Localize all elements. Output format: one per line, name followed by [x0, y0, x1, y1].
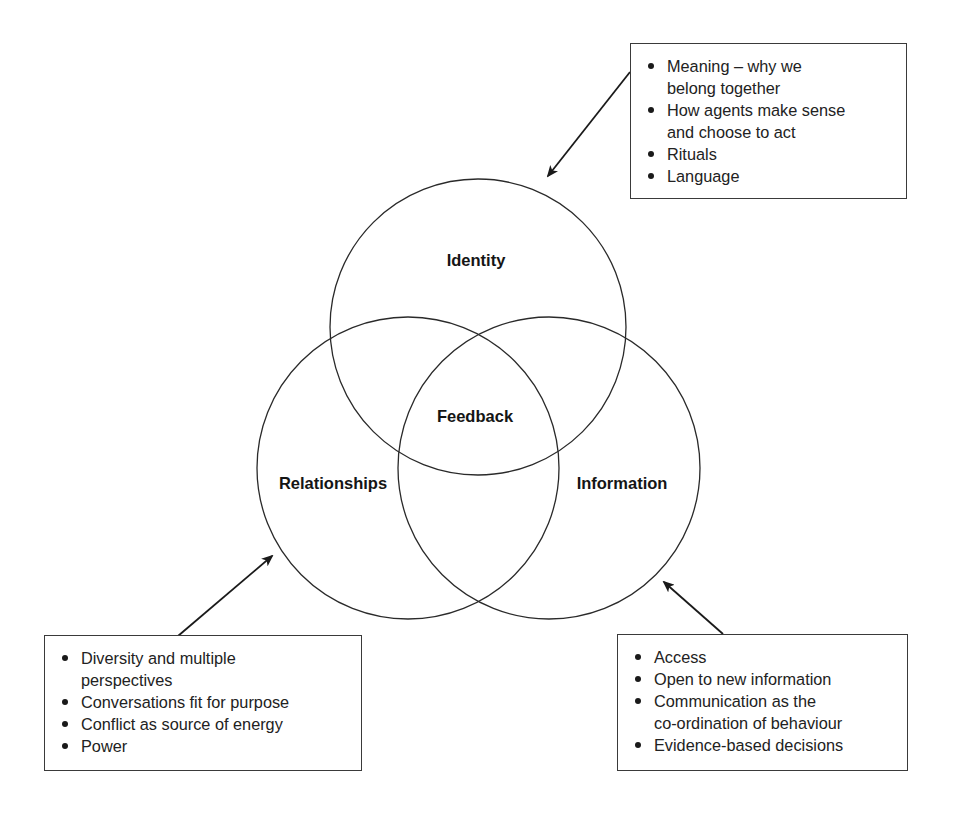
arrow-to-identity — [548, 72, 630, 176]
list-item: Rituals — [631, 143, 906, 165]
list-item: Conversations fit for purpose — [45, 691, 361, 713]
list-item-continuation: and choose to act — [631, 121, 906, 143]
information-notes-list: Access Open to new information Communica… — [618, 646, 907, 756]
relationships-notes-box: Diversity and multiple perspectives Conv… — [44, 635, 362, 771]
list-item: Evidence-based decisions — [618, 734, 907, 756]
information-notes-box: Access Open to new information Communica… — [617, 634, 908, 771]
bullet-icon — [635, 676, 641, 682]
list-item: Access — [618, 646, 907, 668]
list-item: Language — [631, 165, 906, 187]
relationships-notes-list: Diversity and multiple perspectives Conv… — [45, 647, 361, 757]
information-circle — [398, 317, 700, 619]
list-item: Power — [45, 735, 361, 757]
bullet-icon — [62, 699, 68, 705]
bullet-icon — [635, 654, 641, 660]
bullet-icon — [635, 742, 641, 748]
bullet-icon — [648, 63, 654, 69]
bullet-icon — [648, 151, 654, 157]
list-item: Conflict as source of energy — [45, 713, 361, 735]
identity-circle — [330, 179, 626, 475]
list-item-continuation: co-ordination of behaviour — [618, 712, 907, 734]
bullet-icon — [62, 655, 68, 661]
relationships-circle — [257, 317, 559, 619]
identity-label: Identity — [447, 252, 506, 269]
arrow-to-relationships — [178, 556, 272, 636]
bullet-icon — [62, 743, 68, 749]
information-label: Information — [577, 475, 668, 492]
relationships-label: Relationships — [279, 475, 387, 492]
arrow-to-information — [664, 582, 723, 634]
bullet-icon — [635, 698, 641, 704]
list-item: Communication as the — [618, 690, 907, 712]
list-item-continuation: belong together — [631, 77, 906, 99]
bullet-icon — [62, 721, 68, 727]
list-item: Diversity and multiple — [45, 647, 361, 669]
bullet-icon — [648, 107, 654, 113]
identity-notes-list: Meaning – why we belong together How age… — [631, 55, 906, 187]
list-item-continuation: perspectives — [45, 669, 361, 691]
identity-notes-box: Meaning – why we belong together How age… — [630, 43, 907, 199]
list-item: How agents make sense — [631, 99, 906, 121]
list-item: Open to new information — [618, 668, 907, 690]
list-item: Meaning – why we — [631, 55, 906, 77]
bullet-icon — [648, 173, 654, 179]
feedback-label: Feedback — [437, 408, 513, 425]
